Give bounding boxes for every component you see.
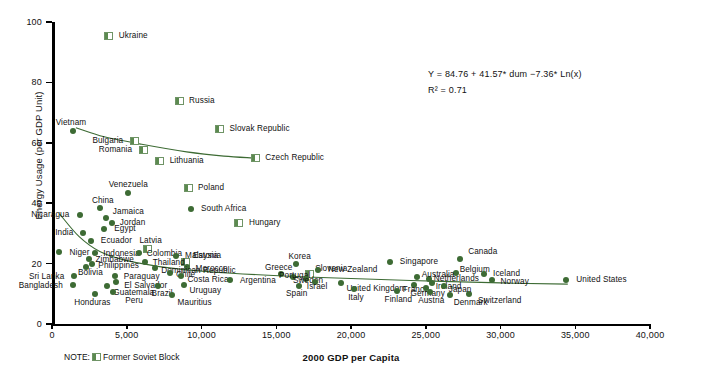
- equation-line: Y = 84.76 + 41.57* dum −7.36* Ln(x): [428, 66, 582, 82]
- x-tick: [51, 324, 53, 329]
- data-point-denmark[interactable]: [447, 292, 453, 298]
- point-label-paraguay: Paraguay: [124, 273, 160, 281]
- point-label-korea: Korea: [288, 253, 310, 261]
- data-point-iceland[interactable]: [481, 271, 487, 277]
- data-point-argentina[interactable]: [227, 277, 233, 283]
- data-point-philippines[interactable]: [89, 261, 95, 267]
- point-label-austria: Austria: [418, 297, 444, 305]
- data-point-mauritius[interactable]: [169, 292, 175, 298]
- y-tick-label: 0: [0, 319, 42, 329]
- point-label-canada: Canada: [468, 248, 497, 256]
- point-label-ukraine: Ukraine: [119, 32, 148, 40]
- data-point-korea[interactable]: [293, 261, 299, 267]
- point-label-bulgaria: Bulgaria: [92, 137, 123, 145]
- data-point-united-states[interactable]: [563, 277, 569, 283]
- data-point-bulgaria[interactable]: [130, 137, 139, 145]
- data-point-thailand[interactable]: [142, 259, 148, 265]
- data-point-norway[interactable]: [489, 277, 495, 283]
- data-point-india[interactable]: [80, 230, 86, 236]
- point-label-israel: Israel: [307, 283, 328, 291]
- point-label-nicaragua: Nicaragua: [31, 211, 69, 219]
- point-label-lithuania: Lithuania: [170, 157, 204, 165]
- data-point-russia[interactable]: [175, 97, 184, 105]
- y-tick: [46, 142, 52, 144]
- point-label-honduras: Honduras: [74, 299, 110, 307]
- point-label-russia: Russia: [189, 97, 215, 105]
- data-point-honduras[interactable]: [92, 291, 98, 297]
- data-point-el-salvador[interactable]: [113, 279, 119, 285]
- regression-equation: Y = 84.76 + 41.57* dum −7.36* Ln(x) R² =…: [428, 66, 582, 98]
- point-label-czech-republic: Czech Republic: [265, 154, 324, 162]
- point-label-philippines: Philippines: [98, 262, 139, 270]
- x-tick-label: 15,000: [241, 330, 311, 340]
- x-tick-label: 40,000: [615, 330, 685, 340]
- point-label-finland: Finland: [385, 296, 413, 304]
- y-tick-label: 20: [0, 259, 42, 269]
- r-squared-line: R² = 0.71: [428, 82, 582, 98]
- chart-note: NOTE: Former Soviet Block: [64, 352, 180, 362]
- point-label-singapore: Singapore: [400, 258, 438, 266]
- data-point-ukraine[interactable]: [104, 32, 113, 40]
- y-tick: [46, 82, 52, 84]
- data-point-australia[interactable]: [414, 274, 420, 280]
- point-label-slovak-republic: Slovak Republic: [229, 125, 289, 133]
- x-tick: [126, 324, 128, 329]
- data-point-south-africa[interactable]: [188, 206, 194, 212]
- point-label-argentina: Argentina: [240, 277, 276, 285]
- scatter-chart: 020406080100 05,00010,00015,00020,00025,…: [0, 0, 702, 379]
- data-point-sri-lanka[interactable]: [71, 273, 77, 279]
- data-point-niger[interactable]: [56, 249, 62, 255]
- point-label-bolivia: Bolivia: [78, 269, 103, 277]
- data-point-chile[interactable]: [167, 270, 173, 276]
- point-label-mauritius: Mauritius: [178, 299, 212, 307]
- y-tick: [46, 202, 52, 204]
- data-point-united-kingdom[interactable]: [338, 280, 344, 286]
- x-tick: [425, 324, 427, 329]
- x-tick: [649, 324, 651, 329]
- data-point-uruguay[interactable]: [181, 282, 187, 288]
- data-point-guatemala[interactable]: [104, 283, 110, 289]
- point-label-romania: Romania: [99, 146, 132, 154]
- data-point-vietnam[interactable]: [70, 128, 76, 134]
- data-point-paraguay[interactable]: [112, 273, 118, 279]
- data-point-costa-rica[interactable]: [178, 273, 184, 279]
- data-point-lithuania[interactable]: [155, 157, 164, 165]
- data-point-japan[interactable]: [441, 283, 447, 289]
- y-tick-label: 100: [0, 17, 42, 27]
- point-label-peru: Peru: [125, 297, 143, 305]
- data-point-colombia[interactable]: [136, 250, 142, 256]
- data-point-singapore[interactable]: [387, 259, 393, 265]
- data-point-poland[interactable]: [184, 184, 193, 192]
- data-point-new-zealand[interactable]: [315, 267, 321, 273]
- point-label-vietnam: Vietnam: [56, 119, 87, 127]
- y-tick: [46, 263, 52, 265]
- point-label-australia: Australia: [422, 271, 455, 279]
- x-tick-label: 5,000: [92, 330, 162, 340]
- data-point-china[interactable]: [97, 205, 103, 211]
- x-tick-label: 30,000: [466, 330, 536, 340]
- point-label-poland: Poland: [198, 184, 224, 192]
- data-point-bangladesh[interactable]: [70, 282, 76, 288]
- data-point-czech-republic[interactable]: [251, 154, 260, 162]
- soviet-block-swatch-icon: [92, 353, 101, 361]
- data-point-hungary[interactable]: [234, 219, 243, 227]
- data-point-jamaica[interactable]: [103, 215, 109, 221]
- data-point-ireland[interactable]: [429, 280, 435, 286]
- data-point-canada[interactable]: [457, 256, 463, 262]
- data-point-egypt[interactable]: [101, 226, 107, 232]
- data-point-slovak-republic[interactable]: [215, 125, 224, 133]
- point-label-spain: Spain: [286, 290, 307, 298]
- x-tick-label: 25,000: [391, 330, 461, 340]
- x-tick: [350, 324, 352, 329]
- data-point-venezuela[interactable]: [125, 190, 131, 196]
- data-point-ecuador[interactable]: [88, 238, 94, 244]
- point-label-india: India: [55, 229, 73, 237]
- data-point-romania[interactable]: [139, 146, 148, 154]
- point-label-united-states: United States: [576, 276, 626, 284]
- point-label-denmark: Denmark: [454, 299, 488, 307]
- note-prefix: NOTE:: [64, 352, 90, 362]
- x-tick-label: 35,000: [540, 330, 610, 340]
- data-point-nicaragua[interactable]: [77, 212, 83, 218]
- data-point-dominican-republic[interactable]: [152, 265, 158, 271]
- x-tick: [201, 324, 203, 329]
